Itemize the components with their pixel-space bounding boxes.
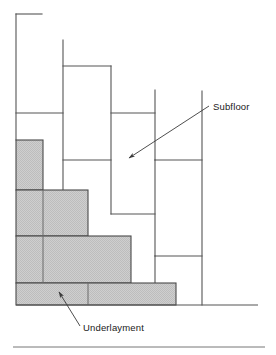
step-1-top xyxy=(16,140,43,190)
underlayment-steps xyxy=(16,140,176,305)
step-3 xyxy=(16,236,131,283)
subfloor-underlayment-diagram: Subfloor Underlayment xyxy=(0,0,276,355)
underlayment-label: Underlayment xyxy=(83,322,144,333)
subfloor-label: Subfloor xyxy=(213,101,250,112)
step-4-bottom xyxy=(16,283,176,305)
subfloor-callout: Subfloor xyxy=(129,101,250,158)
step-2 xyxy=(16,190,88,236)
subfloor-leader-line xyxy=(129,106,209,158)
